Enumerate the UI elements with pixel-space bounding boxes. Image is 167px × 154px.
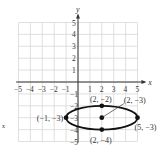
data-point [135,115,140,120]
stray-annotation: x [2,123,5,129]
x-axis-arrow-icon [141,80,146,84]
x-tick-label: −2 [50,85,58,94]
x-tick-label: −4 [26,85,34,94]
x-tick-label: 1 [88,85,92,94]
point-labels: (−1, −3)(2, −2)(2, −3)(5, −3)(2, −4)x [2,95,157,145]
x-axis-label: x [147,78,152,87]
x-tick-label: −1 [62,85,70,94]
y-tick-label: 2 [72,54,76,63]
x-tick-label: 2 [100,85,104,94]
data-point [64,115,69,120]
x-tick-label: −5 [14,85,22,94]
y-tick-label: 3 [72,42,76,51]
x-tick-label: −3 [38,85,46,94]
y-tick-label: −5 [70,138,78,147]
y-tick-label: −3 [70,114,78,123]
point-label: (2, −3) [124,96,146,105]
y-axis-label: y [75,5,80,14]
x-tick-label: 4 [124,85,128,94]
x-tick-label: 3 [112,85,116,94]
point-label: (2, −2) [90,95,112,104]
y-tick-label: 5 [72,19,76,28]
y-tick-label: 4 [72,30,76,39]
point-label: (2, −4) [90,136,112,145]
point-label: (5, −3) [135,123,157,132]
y-tick-label: −1 [70,90,78,99]
coordinate-plot: xy −5−4−3−2−11234554321−1−2−3−4−5 (−1, −… [0,0,167,154]
point-label: (−1, −3) [37,114,64,123]
y-tick-label: 1 [72,66,76,75]
x-tick-label: 5 [136,85,140,94]
data-point [99,127,104,132]
data-point [99,103,104,108]
